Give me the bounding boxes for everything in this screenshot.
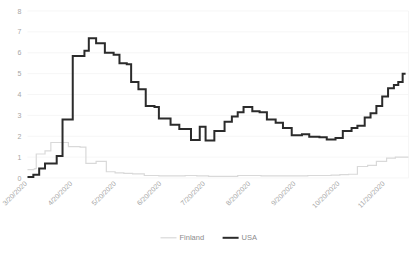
x-tick-label: 11/20/2020: [356, 180, 385, 209]
x-axis-tick-labels: 3/20/20204/20/20205/20/20206/20/20207/20…: [1, 180, 386, 210]
x-tick-label: 3/20/2020: [1, 180, 28, 207]
x-tick-label: 9/20/2020: [270, 180, 297, 207]
legend-label-usa[interactable]: USA: [242, 233, 257, 242]
y-axis-tick-labels: 012345678: [18, 8, 22, 182]
y-tick-label: 4: [18, 91, 22, 98]
x-tick-label: 5/20/2020: [90, 180, 117, 207]
y-tick-label: 1: [18, 154, 22, 161]
y-tick-label: 2: [18, 133, 22, 140]
gridlines: [28, 11, 409, 178]
chart-container: 012345678 3/20/20204/20/20205/20/20206/2…: [0, 0, 415, 253]
y-tick-label: 6: [18, 49, 22, 56]
x-tick-label: 10/20/2020: [311, 180, 341, 210]
series-line-usa: [28, 38, 406, 177]
y-tick-label: 5: [18, 70, 22, 77]
y-tick-label: 8: [18, 8, 22, 15]
x-tick-label: 4/20/2020: [46, 180, 73, 207]
y-tick-label: 7: [18, 28, 22, 35]
chart-legend: FinlandUSA: [161, 233, 258, 242]
x-tick-label: 7/20/2020: [179, 180, 206, 207]
y-tick-label: 0: [18, 175, 22, 182]
x-tick-label: 6/20/2020: [136, 180, 163, 207]
series-line-finland: [28, 143, 409, 177]
legend-label-finland[interactable]: Finland: [180, 233, 205, 242]
data-series: [28, 38, 409, 177]
x-tick-label: 8/20/2020: [225, 180, 252, 207]
y-tick-label: 3: [18, 112, 22, 119]
line-chart: 012345678 3/20/20204/20/20205/20/20206/2…: [0, 0, 415, 253]
